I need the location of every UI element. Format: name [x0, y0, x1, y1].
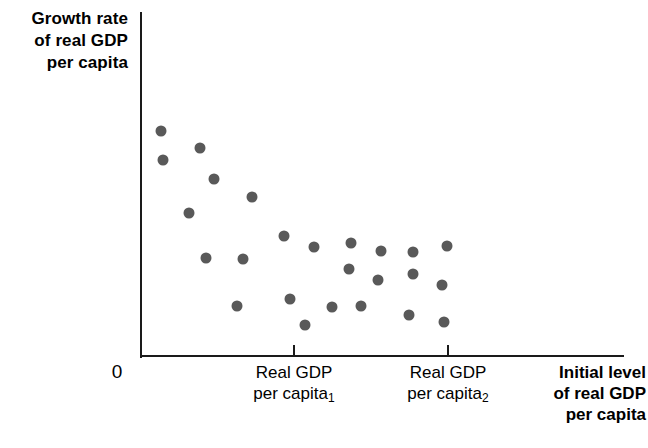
scatter-point — [184, 208, 195, 219]
scatter-point — [408, 247, 419, 258]
scatter-point — [247, 192, 258, 203]
scatter-point — [327, 302, 338, 313]
scatter-point — [279, 231, 290, 242]
scatter-point — [404, 310, 415, 321]
scatter-point — [309, 242, 320, 253]
scatter-point — [158, 155, 169, 166]
scatter-point — [439, 317, 450, 328]
scatter-point — [373, 275, 384, 286]
scatter-point — [285, 294, 296, 305]
scatter-plot-area — [0, 0, 648, 448]
scatter-point — [238, 254, 249, 265]
scatter-point — [376, 246, 387, 257]
scatter-point — [408, 269, 419, 280]
scatter-point — [442, 241, 453, 252]
scatter-point — [300, 320, 311, 331]
chart-figure: Growth rate of real GDP per capita 0 Rea… — [0, 0, 648, 448]
scatter-point — [346, 238, 357, 249]
scatter-point — [201, 253, 212, 264]
scatter-point — [209, 174, 220, 185]
scatter-point — [232, 301, 243, 312]
scatter-point — [437, 280, 448, 291]
scatter-point — [156, 126, 167, 137]
scatter-point — [195, 143, 206, 154]
scatter-point — [356, 301, 367, 312]
scatter-point — [344, 264, 355, 275]
